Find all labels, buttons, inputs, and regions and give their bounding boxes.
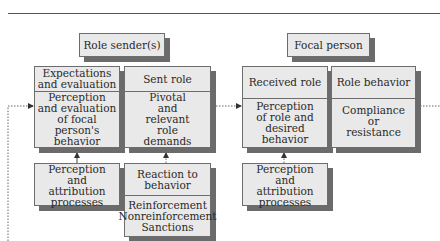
focal-person-label: Focal person (288, 34, 369, 56)
role-sender-label: Role sender(s) (80, 34, 164, 56)
sent-role-box: Sent role Pivotal and relevant role dema… (124, 66, 211, 148)
received-role-header: Received role (243, 67, 327, 98)
focal-perception-box: Perception and attribution processes (242, 163, 328, 206)
reaction-body: Reinforcement Nonreinforcement Sanctions (125, 195, 210, 236)
reaction-box: Reaction to behavior Reinforcement Nonre… (124, 163, 211, 237)
feedback-loop-line (8, 106, 33, 241)
expectations-body: Perception and evaluation of focal perso… (35, 91, 119, 147)
role-sender-label-box: Role sender(s) (79, 33, 165, 57)
sender-perception-body: Perception and attribution processes (35, 164, 119, 208)
received-role-body: Perception of role and desired behavior (243, 98, 327, 147)
role-behavior-header: Role behavior (332, 67, 415, 98)
sent-role-header: Sent role (125, 67, 210, 91)
expectations-box: Expectations and evaluation Perception a… (34, 66, 120, 148)
focal-person-label-box: Focal person (287, 33, 370, 57)
received-role-box: Received role Perception of role and des… (242, 66, 328, 148)
role-behavior-box: Role behavior Compliance or resistance (331, 66, 416, 148)
expectations-header: Expectations and evaluation (35, 67, 119, 91)
reaction-header: Reaction to behavior (125, 164, 210, 195)
role-behavior-body: Compliance or resistance (332, 98, 415, 147)
sender-perception-box: Perception and attribution processes (34, 163, 120, 206)
focal-perception-body: Perception and attribution processes (243, 164, 327, 208)
sent-role-body: Pivotal and relevant role demands (125, 91, 210, 147)
